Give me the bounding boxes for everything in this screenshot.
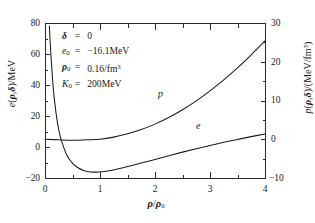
curve-pressure [45, 41, 265, 140]
curve-label-p: p [158, 88, 163, 99]
curves-layer [0, 0, 315, 223]
curve-energy-per-nucleon [49, 26, 265, 172]
figure-eos-plot: 80 60 40 20 0 −20 30 20 10 0 −10 0 1 2 3… [0, 0, 315, 223]
curve-label-e: e [196, 120, 200, 131]
